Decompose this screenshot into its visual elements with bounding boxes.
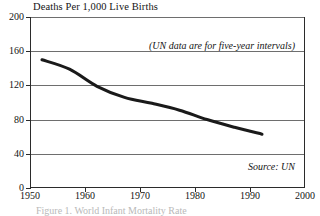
figure-container: Deaths Per 1,000 Live Births 04080120160… bbox=[0, 0, 320, 216]
x-tick-label-1950: 1950 bbox=[10, 190, 50, 201]
interval-note-annotation: (UN data are for five-year intervals) bbox=[149, 40, 295, 51]
page-title: Deaths Per 1,000 Live Births bbox=[33, 1, 158, 13]
x-tick-label-2000: 2000 bbox=[285, 190, 320, 201]
x-tick-mark-1970 bbox=[140, 188, 141, 192]
figure-caption: Figure 1. World Infant Mortality Rate bbox=[36, 205, 187, 216]
x-tick-mark-1990 bbox=[250, 188, 251, 192]
y-tick-mark-0 bbox=[26, 188, 31, 189]
plot-area: (UN data are for five-year intervals) So… bbox=[30, 17, 305, 188]
source-annotation: Source: UN bbox=[248, 161, 295, 172]
x-tick-mark-1960 bbox=[85, 188, 86, 192]
x-tick-mark-1980 bbox=[195, 188, 196, 192]
